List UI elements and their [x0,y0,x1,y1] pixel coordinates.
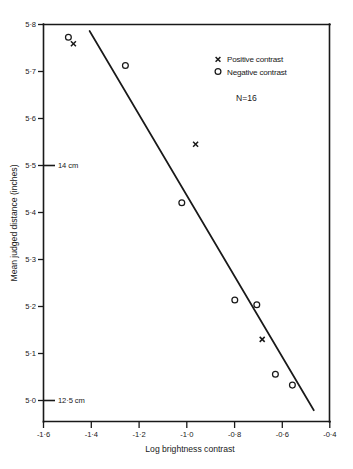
annotation-12.5cm: 12·5 cm [58,396,85,405]
circle-marker-icon [215,69,221,75]
cm-reference-ticks [44,166,56,401]
data-point-x [260,337,265,342]
x-axis-ticks [44,422,330,429]
series-negative-contrast [66,34,296,388]
legend-entry-negative-contrast: Negative contrast [215,68,287,77]
y-axis-ticks [38,25,44,401]
y-tick-label-5.0: 5·0 [25,396,36,405]
data-point-x [71,41,76,46]
x-tick-label--0.4: -0·4 [323,430,336,439]
x-marker-icon [216,57,221,62]
legend-label-negative-contrast: Negative contrast [227,68,288,77]
x-tick-labels: -1·6 -1·4 -1·2 -1·0 -0·8 -0·6 -0·4 [37,430,336,439]
x-tick-label--0.6: -0·6 [276,430,289,439]
legend-label-positive-contrast: Positive contrast [227,55,284,64]
data-point-circle [273,371,279,377]
data-point-circle [232,297,238,303]
y-tick-label-5.2: 5·2 [25,302,36,311]
y-tick-label-5.5: 5·5 [25,161,36,170]
y-axis-title: Mean judged distance (inches) [9,164,19,281]
y-tick-label-5.6: 5·6 [25,114,36,123]
regression-line [90,31,314,410]
figure-container: 5·8 5·7 5·6 5·5 5·4 5·3 5·2 5·1 5·0 14 c… [0,0,353,469]
data-point-circle [179,200,185,206]
x-tick-label--1.0: -1·0 [180,430,193,439]
data-point-circle [254,302,260,308]
x-tick-label--0.8: -0·8 [228,430,241,439]
y-tick-label-5.4: 5·4 [25,208,36,217]
y-tick-label-5.1: 5·1 [25,349,36,358]
scatter-plot: 5·8 5·7 5·6 5·5 5·4 5·3 5·2 5·1 5·0 14 c… [0,0,353,469]
y-tick-label-5.3: 5·3 [25,255,36,264]
legend-entry-positive-contrast: Positive contrast [216,55,284,64]
y-tick-labels: 5·8 5·7 5·6 5·5 5·4 5·3 5·2 5·1 5·0 [25,20,36,405]
legend-sample-size: N=16 [236,93,257,103]
x-tick-label--1.2: -1·2 [133,430,146,439]
x-axis-title: Log brightness contrast [145,444,235,454]
x-tick-label--1.6: -1·6 [37,430,50,439]
legend: Positive contrast Negative contrast N=16 [215,55,287,103]
data-point-circle [290,382,296,388]
y-tick-label-5.8: 5·8 [25,20,36,29]
annotation-14cm: 14 cm [58,161,78,170]
data-point-circle [66,34,72,40]
data-point-circle [123,63,129,69]
y-tick-label-5.7: 5·7 [25,67,36,76]
x-tick-label--1.4: -1·4 [85,430,98,439]
data-point-x [193,142,198,147]
axes-frame [44,24,331,422]
